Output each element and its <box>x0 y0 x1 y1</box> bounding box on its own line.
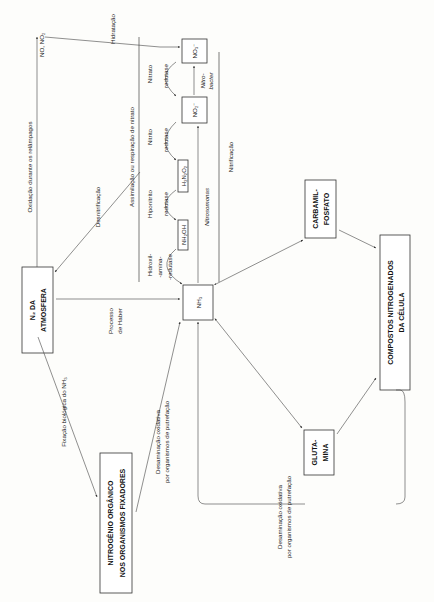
no2-label: NO₂⁻ <box>191 103 198 118</box>
enzyme-nitrito-line2: redutase <box>162 127 169 152</box>
loop-compostos-right <box>396 390 405 504</box>
node-h2n2o2: H₂N₂O₂ <box>178 160 188 192</box>
rotated-diagram-group: N₂ DA ATMOSFERA NITROGÊNIO ORGÂNICO NOS … <box>22 13 410 593</box>
enzyme-hiponitrito-line2: redutase <box>162 191 169 216</box>
h2n2o2-label: H₂N₂O₂ <box>181 165 187 186</box>
enzyme-nitrato-line1: Nitrato <box>146 64 153 83</box>
arrow-glutamina-compostos <box>337 378 376 434</box>
carbamil-line2: FOSFATO <box>323 192 330 225</box>
label-desaminacao1-line2: por organismos de putrefação <box>163 400 170 483</box>
nitrogenio-line2: NOS ORGANISMOS FIXADORES <box>119 468 126 577</box>
arrow-nh3-carbamil <box>216 240 303 284</box>
node-nh3: NH₃ <box>183 285 213 320</box>
node-compostos: COMPOSTOS NITROGENADOS DA CÉLULA <box>380 235 410 390</box>
nitrogenio-line1: NITROGÊNIO ORGÂNICO <box>106 480 114 565</box>
node-glutamina: GLUTA- MINA <box>304 430 334 475</box>
arrow-fixacao-biologica <box>38 337 97 497</box>
carbamil-line1: CARBAMIL- <box>312 189 319 229</box>
nh2oh-label: NH₂OH <box>181 225 187 245</box>
node-nh2oh: NH₂OH <box>178 220 188 250</box>
n2-line1: N₂ DA <box>29 300 36 320</box>
label-assimilacao: Assimilação ou respiração de nitrato <box>128 107 135 207</box>
glutamina-line1: GLUTA- <box>311 439 318 466</box>
label-desaminacao1-line1: Desaminação oxidativa <box>154 409 161 474</box>
glutamina-line2: MINA <box>322 444 329 462</box>
diagram-canvas: N₂ DA ATMOSFERA NITROGÊNIO ORGÂNICO NOS … <box>0 0 434 602</box>
label-desaminacao2-line2: por organismos de putrefação <box>285 475 292 558</box>
compostos-line2: DA CÉLULA <box>397 292 405 332</box>
label-nitrosomonas: Nitrosomonas <box>203 188 210 226</box>
node-carbamil-fosfato: CARBAMIL- FOSFATO <box>305 180 336 238</box>
enzyme-hidroxilamina-line3: -redutase <box>166 253 173 280</box>
arrow-nh3-glutamina <box>216 320 302 428</box>
enzyme-hiponitrito-line1: Hiponitrito <box>146 190 153 218</box>
nitrogen-cycle-diagram: N₂ DA ATMOSFERA NITROGÊNIO ORGÂNICO NOS … <box>0 0 434 602</box>
label-haber-line2: de Haber <box>116 308 123 333</box>
nh3-label: NH₃ <box>195 296 202 308</box>
label-haber-line1: Processo <box>107 308 114 334</box>
label-hidratacao: Hidratação <box>109 13 116 43</box>
label-desnitrificacao: Desnitrificação <box>94 186 101 227</box>
label-nitrobacter-line2: bacter <box>207 71 214 89</box>
no3-label: NO₃⁻ <box>191 44 198 59</box>
no-no2-label: NO, NO₂ <box>38 32 45 57</box>
node-n2-atmosfera: N₂ DA ATMOSFERA <box>22 267 53 353</box>
compostos-line1: COMPOSTOS NITROGENADOS <box>387 260 394 365</box>
enzyme-nitrito-line1: Nitrito <box>146 128 153 145</box>
enzyme-nitrato-line2: redutase <box>162 63 169 88</box>
enzyme-hidroxilamina-line1: Hidroxil- <box>146 254 153 277</box>
arrow-carbamil-compostos <box>339 230 376 248</box>
node-nitrogenio-organico: NITROGÊNIO ORGÂNICO NOS ORGANISMOS FIXAD… <box>100 453 132 593</box>
label-desaminacao2-line1: Desaminação oxidativa <box>276 484 283 549</box>
node-no3: NO₃⁻ <box>182 39 207 63</box>
label-nitrobacter-line1: Nitro- <box>199 73 206 88</box>
enzyme-hidroxilamina-line2: -amina- <box>156 257 163 278</box>
label-oxidacao: Oxidação durante os relâmpagos <box>26 121 33 212</box>
label-fixacao: Fixação biológica do NH₃ <box>60 377 67 447</box>
n2-line2: ATMOSFERA <box>40 288 47 332</box>
node-no2: NO₂⁻ <box>182 97 207 123</box>
label-nitrificacao: Nitrificação <box>227 141 234 172</box>
